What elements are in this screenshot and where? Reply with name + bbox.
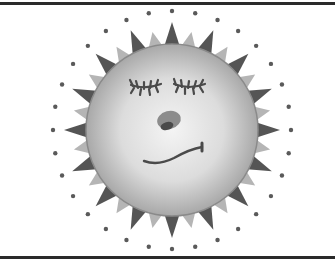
ray-dot bbox=[147, 11, 151, 15]
ray-dot bbox=[170, 9, 174, 13]
ray-dot bbox=[236, 29, 240, 33]
ray-dot bbox=[254, 44, 258, 48]
ray-dot bbox=[60, 82, 64, 86]
ray-dot bbox=[104, 227, 108, 231]
ray-dot bbox=[280, 173, 284, 177]
ray-dot bbox=[86, 44, 90, 48]
ray-dot bbox=[193, 11, 197, 15]
ray-dot bbox=[71, 194, 75, 198]
ray-dot bbox=[280, 82, 284, 86]
ray-dot bbox=[53, 151, 57, 155]
ray-dot bbox=[124, 238, 128, 242]
ray-dot bbox=[170, 247, 174, 251]
ray-dot bbox=[287, 151, 291, 155]
ray-dot bbox=[71, 62, 75, 66]
sun-illustration bbox=[0, 0, 335, 274]
ray-dot bbox=[236, 227, 240, 231]
ray-dot bbox=[124, 18, 128, 22]
ray-dot bbox=[86, 212, 90, 216]
ray-dot bbox=[269, 194, 273, 198]
sun-face bbox=[86, 44, 258, 216]
ray-dot bbox=[289, 128, 293, 132]
ray-dot bbox=[60, 173, 64, 177]
ray-dot bbox=[254, 212, 258, 216]
ray-dot bbox=[215, 238, 219, 242]
ray-dot bbox=[51, 128, 55, 132]
ray-dot bbox=[104, 29, 108, 33]
ray-dot bbox=[287, 105, 291, 109]
ray-dot bbox=[215, 18, 219, 22]
ray-dot bbox=[193, 245, 197, 249]
ray-dot bbox=[147, 245, 151, 249]
ray-dot bbox=[53, 105, 57, 109]
ray-dot bbox=[269, 62, 273, 66]
